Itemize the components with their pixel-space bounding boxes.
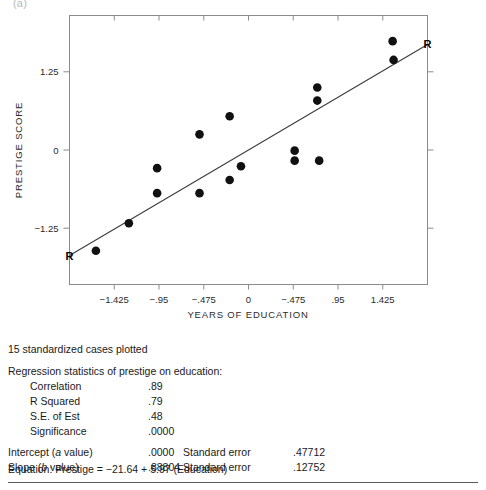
x-tick-label: −.475 (281, 294, 305, 305)
stats-row-label: S.E. of Est (30, 411, 80, 422)
data-point (225, 176, 234, 185)
stats-heading-line: Regression statistics of prestige on edu… (8, 366, 478, 381)
data-point (153, 189, 162, 198)
stats-rows: Correlation.89R Squared.79S.E. of Est.48… (8, 381, 478, 441)
slope-se-value: .12752 (293, 462, 325, 473)
regression-endpoint-label: R (424, 38, 432, 50)
stats-row: R Squared.79 (8, 396, 478, 411)
data-point (153, 164, 162, 173)
data-point (389, 56, 398, 65)
stats-row: Significance.0000 (8, 426, 478, 441)
equation-line: Equation: Prestige = −21.64 + 5.97 (Educ… (8, 463, 227, 475)
y-axis-title: PRESTIGE SCORE (13, 102, 24, 198)
y-tick-label: −1.25 (34, 223, 58, 234)
data-point (315, 156, 324, 165)
y-axis-tick-labels: 1.250−1.25 (34, 66, 58, 233)
regression-endpoint-label: R (66, 250, 74, 262)
stats-row-label: R Squared (30, 396, 80, 407)
data-point (195, 130, 204, 139)
x-tick-label: 1.425 (371, 294, 395, 305)
stats-row-value: .0000 (148, 426, 174, 437)
intercept-label: Intercept (a value) (8, 447, 93, 458)
stats-row-label: Significance (30, 426, 87, 437)
stats-row-value: .79 (148, 396, 163, 407)
scatter-chart: −1.425−.95−.4750−.475.951.425 1.250−1.25… (0, 0, 486, 335)
cases-plotted-line: 15 standardized cases plotted (8, 344, 478, 359)
y-axis-ticks-left (64, 72, 70, 228)
y-tick-label: 0 (53, 145, 58, 156)
y-axis-ticks-right (428, 72, 434, 228)
figure-root: (a) −1.425−.95−.4750−.475.951.425 1.250−… (0, 0, 486, 490)
x-axis-tick-labels: −1.425−.95−.4750−.475.951.425 (100, 294, 395, 305)
x-tick-label: −.475 (192, 294, 216, 305)
intercept-value: .0000 (148, 447, 174, 458)
plot-svg: −1.425−.95−.4750−.475.951.425 1.250−1.25… (0, 0, 486, 335)
data-point (290, 146, 299, 155)
stats-row-value: .89 (148, 381, 163, 392)
bottom-rule (8, 482, 478, 483)
stats-row-label: Correlation (30, 381, 81, 392)
intercept-se-value: .47712 (293, 447, 325, 458)
data-point (237, 162, 246, 171)
intercept-row: Intercept (a value) .0000 Standard error… (8, 447, 478, 462)
x-axis-ticks-bottom (114, 285, 383, 290)
data-point (388, 37, 397, 46)
y-tick-label: 1.25 (40, 66, 59, 77)
x-tick-label: .95 (331, 294, 344, 305)
stats-heading-text: Regression statistics of prestige on edu… (8, 366, 222, 377)
data-point (313, 96, 322, 105)
stats-row-value: .48 (148, 411, 163, 422)
x-tick-label: −.95 (150, 294, 169, 305)
data-point (195, 189, 204, 198)
stats-row: Correlation.89 (8, 381, 478, 396)
x-axis-title: YEARS OF EDUCATION (187, 309, 308, 320)
data-point (313, 83, 322, 92)
data-point (290, 156, 299, 165)
cases-plotted-text: 15 standardized cases plotted (8, 344, 148, 355)
stats-row: S.E. of Est.48 (8, 411, 478, 426)
data-point (225, 112, 234, 121)
x-tick-label: −1.425 (100, 294, 129, 305)
statistics-block: 15 standardized cases plotted Regression… (8, 344, 478, 477)
intercept-se-label: Standard error (183, 447, 251, 458)
data-point (125, 219, 134, 228)
x-tick-label: 0 (246, 294, 251, 305)
data-point (92, 246, 101, 255)
